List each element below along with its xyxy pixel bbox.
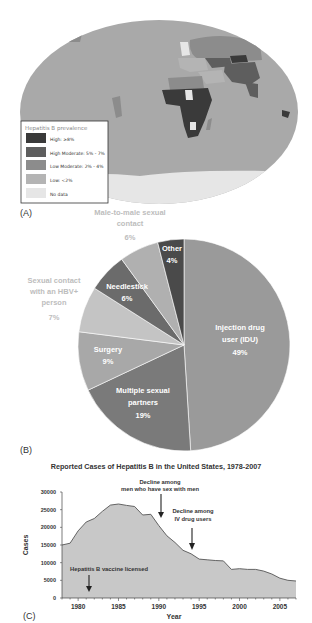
annotation-line: Hepatitis B vaccine licensed — [70, 566, 148, 572]
y-tick-label: 15000 — [41, 542, 56, 548]
annotation-line: IV drug users — [174, 516, 211, 522]
label-msm: Male-to-male sexual contact 6% — [94, 208, 165, 242]
label-line: 19% — [135, 411, 150, 420]
x-tick-label: 1980 — [71, 603, 86, 610]
y-tick-label: 10000 — [41, 560, 56, 566]
legend-swatch — [26, 160, 46, 170]
region-greenland — [66, 34, 82, 42]
legend-label: High Moderate: 5% - 7% — [50, 151, 106, 156]
y-tick-label: 0 — [53, 595, 56, 601]
region-russia — [190, 36, 262, 61]
y-tick-label: 5000 — [44, 577, 56, 583]
y-tick-label: 30000 — [41, 489, 56, 495]
legend-title: Hepatitis B prevalence — [25, 125, 88, 132]
y-axis: 050001000015000200002500030000 — [41, 489, 62, 601]
label-line: with an HBV+ — [29, 287, 79, 296]
map-legend: Hepatitis B prevalence High: ≥8% High Mo… — [21, 121, 108, 203]
label-line: Needlestick — [106, 282, 149, 291]
label-line: user (IDU) — [222, 335, 258, 344]
legend-label: High: ≥8% — [50, 137, 75, 142]
region-botswana — [190, 122, 196, 130]
label-line: 4% — [167, 256, 178, 265]
label-line: 49% — [232, 348, 247, 357]
region-north-africa — [168, 76, 204, 90]
y-tick-label: 25000 — [41, 507, 56, 513]
legend-swatch — [26, 147, 46, 157]
area-chart-title: Reported Cases of Hepatitis B in the Uni… — [51, 462, 262, 471]
arrow-down-icon — [189, 543, 195, 550]
y-axis-label: Cases — [22, 535, 29, 556]
label-line: 6% — [125, 233, 136, 242]
label-line: contact — [117, 219, 144, 228]
x-axis-label: Year — [167, 613, 182, 620]
region-mongolia — [230, 55, 248, 63]
figure-canvas: Hepatitis B prevalence High: ≥8% High Mo… — [0, 0, 312, 623]
arrow-down-icon — [158, 512, 164, 518]
label-line: Sexual contact — [28, 276, 81, 285]
label-line: 6% — [122, 294, 133, 303]
panel-label-c: (C) — [23, 611, 36, 621]
label-line: 9% — [103, 357, 114, 366]
annotation-line: Decline among — [139, 479, 181, 485]
panel-label-a: (A) — [20, 208, 32, 218]
label-hbv: Sexual contact with an HBV+ person 7% — [28, 276, 81, 322]
annotation-idu: Decline among IV drug users — [172, 508, 214, 550]
x-tick-label: 1985 — [111, 603, 126, 610]
legend-label: Low: <2% — [50, 178, 73, 183]
legend-swatch — [26, 133, 46, 143]
annotation-line: men who have sex with men — [121, 486, 199, 492]
label-line: Multiple sexual — [116, 386, 170, 395]
label-line: Male-to-male sexual — [94, 208, 165, 217]
label-line: person — [41, 298, 66, 307]
pie-slice — [184, 239, 290, 451]
y-tick-label: 20000 — [41, 524, 56, 530]
annotation-line: Decline among — [172, 508, 214, 514]
x-tick-label: 1995 — [192, 603, 207, 610]
x-tick-label: 2000 — [232, 603, 247, 610]
region-africa-nodata — [185, 90, 193, 100]
x-tick-label: 2005 — [273, 603, 288, 610]
label-line: Other — [162, 244, 182, 253]
panel-label-b: (B) — [20, 445, 32, 455]
x-tick-label: 1990 — [152, 603, 167, 610]
legend-label: Low Moderate: 2% - 4% — [50, 164, 104, 169]
legend-label: No data — [50, 192, 68, 197]
legend-swatch — [26, 188, 46, 198]
x-axis: 198019851990199520002005 — [62, 598, 296, 610]
label-line: Surgery — [94, 345, 123, 354]
label-line: Injection drug — [215, 323, 265, 332]
label-line: 7% — [49, 313, 60, 322]
legend-swatch — [26, 174, 46, 184]
label-line: partners — [128, 398, 158, 407]
